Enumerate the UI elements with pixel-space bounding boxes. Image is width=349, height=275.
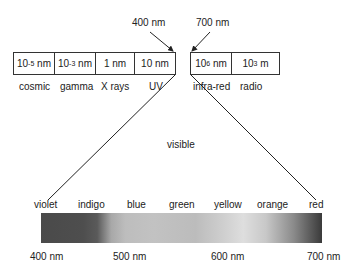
- cell-uv: 10 nm: [135, 53, 175, 74]
- label-uv: UV: [149, 81, 163, 93]
- cell-base: 1 nm: [104, 58, 126, 69]
- visible-spectrum-bar: [41, 213, 322, 243]
- arrow-700nm: [192, 32, 210, 51]
- color-orange: orange: [257, 199, 288, 211]
- wavelength-400: 400 nm: [30, 251, 63, 263]
- cell-base: 10: [195, 58, 206, 69]
- cell-unit: nm: [210, 58, 227, 69]
- color-blue: blue: [127, 199, 146, 211]
- cell-xrays: 1 nm: [96, 53, 135, 74]
- cell-base: 10: [242, 58, 253, 69]
- line-ir-to-red: [191, 75, 316, 200]
- line-uv-to-violet: [48, 75, 175, 200]
- arrow-label-700nm: 700 nm: [196, 17, 229, 29]
- color-violet: violet: [34, 199, 57, 211]
- cell-base: 10: [17, 58, 28, 69]
- cell-base: 10 nm: [141, 58, 169, 69]
- label-cosmic: cosmic: [19, 81, 50, 93]
- wavelength-700: 700 nm: [307, 251, 340, 263]
- label-infrared: infra-red: [193, 81, 230, 93]
- cell-infrared: 106 nm: [191, 53, 232, 74]
- cell-gamma: 10-3 nm: [55, 53, 96, 74]
- arrow-400nm: [150, 32, 173, 51]
- long-wavelength-box: 106 nm 103 m: [190, 52, 280, 75]
- label-xrays: X rays: [101, 81, 129, 93]
- visible-label: visible: [167, 139, 195, 151]
- cell-radio: 103 m: [232, 53, 279, 74]
- color-yellow: yellow: [214, 199, 242, 211]
- color-green: green: [169, 199, 195, 211]
- cell-unit: m: [257, 58, 268, 69]
- cell-unit: nm: [75, 58, 92, 69]
- cell-base: 10: [58, 58, 69, 69]
- label-radio: radio: [240, 81, 262, 93]
- color-indigo: indigo: [78, 199, 105, 211]
- cell-cosmic: 10-5 nm: [14, 53, 55, 74]
- wavelength-500: 500 nm: [113, 251, 146, 263]
- wavelength-600: 600 nm: [211, 251, 244, 263]
- color-red: red: [309, 199, 323, 211]
- label-gamma: gamma: [60, 81, 93, 93]
- cell-unit: nm: [34, 58, 51, 69]
- arrow-label-400nm: 400 nm: [132, 17, 165, 29]
- short-wavelength-box: 10-5 nm 10-3 nm 1 nm 10 nm: [13, 52, 176, 75]
